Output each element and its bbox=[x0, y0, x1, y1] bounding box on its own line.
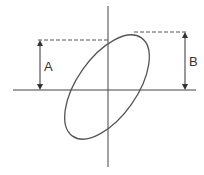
lissajous-diagram: A B bbox=[0, 0, 204, 175]
lissajous-ellipse bbox=[48, 21, 166, 154]
label-b: B bbox=[189, 54, 198, 69]
label-a: A bbox=[44, 59, 53, 74]
